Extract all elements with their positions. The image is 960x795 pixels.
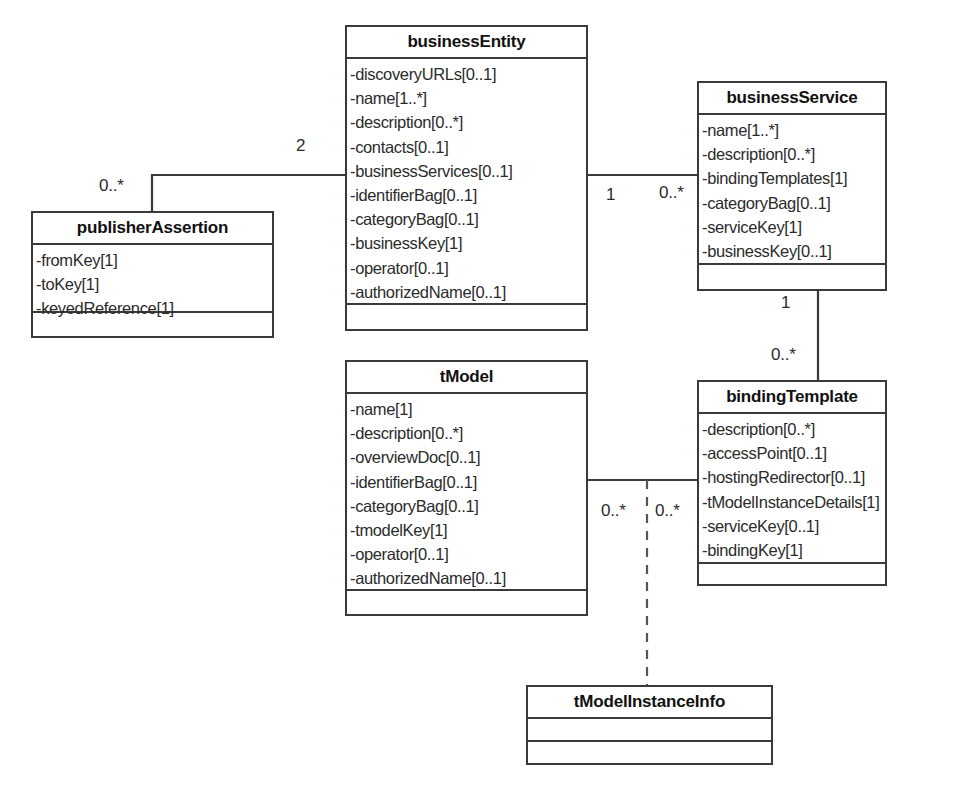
class-name-tmodel: tModel (347, 362, 586, 394)
attribute-row: -bindingKey[1] (702, 538, 885, 562)
uml-class-diagram-canvas: businessEntity -discoveryURLs[0..1] -nam… (0, 0, 960, 795)
attribute-compartment-tmodel: -name[1] -description[0..*] -overviewDoc… (347, 394, 586, 591)
attribute-compartment-publisherassertion: -fromKey[1] -toKey[1] -keyedReference[1] (33, 245, 272, 313)
attribute-row: -identifierBag[0..1] (350, 470, 586, 494)
attribute-row: -description[0..*] (702, 417, 885, 441)
operation-compartment-tmodel (347, 591, 586, 614)
attribute-row: -name[1] (350, 397, 586, 421)
attribute-row: -operator[0..1] (350, 256, 586, 280)
uml-class-businessentity[interactable]: businessEntity -discoveryURLs[0..1] -nam… (345, 25, 588, 331)
attribute-row: -fromKey[1] (36, 248, 272, 272)
attribute-row: -categoryBag[0..1] (702, 191, 885, 215)
attribute-row: -categoryBag[0..1] (350, 207, 586, 231)
attribute-compartment-businessentity: -discoveryURLs[0..1] -name[1..*] -descri… (347, 59, 586, 305)
attribute-row: -name[1..*] (350, 86, 586, 110)
association-businessentity-publisherassertion[interactable] (152, 175, 345, 211)
uml-class-tmodel[interactable]: tModel -name[1] -description[0..*] -over… (345, 360, 588, 616)
attribute-row: -overviewDoc[0..1] (350, 445, 586, 469)
attribute-row: -contacts[0..1] (350, 135, 586, 159)
attribute-row: -categoryBag[0..1] (350, 494, 586, 518)
attribute-row: -authorizedName[0..1] (350, 566, 586, 590)
class-name-tmodelinstanceinfo: tModelInstanceInfo (528, 687, 771, 719)
multiplicity-label-tmodel-binding-to: 0..* (655, 501, 680, 521)
uml-class-publisherassertion[interactable]: publisherAssertion -fromKey[1] -toKey[1]… (31, 211, 274, 338)
operation-compartment-businessentity (347, 305, 586, 329)
attribute-row: -tmodelKey[1] (350, 518, 586, 542)
attribute-row: -accessPoint[0..1] (702, 441, 885, 465)
multiplicity-label-entity-service-to: 0..* (659, 183, 684, 203)
attribute-row: -bindingTemplates[1] (702, 166, 885, 190)
multiplicity-label-entity-service-from: 1 (606, 185, 615, 205)
multiplicity-label-service-binding-from: 1 (781, 293, 790, 313)
attribute-compartment-tmodelinstanceinfo (528, 719, 771, 742)
operation-compartment-bindingtemplate (699, 564, 885, 584)
attribute-row: -discoveryURLs[0..1] (350, 62, 586, 86)
attribute-row: -authorizedName[0..1] (350, 280, 586, 304)
attribute-row: -toKey[1] (36, 272, 272, 296)
operation-compartment-businessservice (699, 265, 885, 289)
multiplicity-label-tmodel-binding-from: 0..* (601, 501, 626, 521)
attribute-row: -tModelInstanceDetails[1] (702, 490, 885, 514)
attribute-row: -serviceKey[0..1] (702, 514, 885, 538)
attribute-row: -description[0..*] (702, 142, 885, 166)
multiplicity-label-entity-assertion-from: 2 (296, 136, 305, 156)
multiplicity-label-service-binding-to: 0..* (771, 345, 796, 365)
attribute-row: -identifierBag[0..1] (350, 183, 586, 207)
attribute-row: -description[0..*] (350, 421, 586, 445)
attribute-row: -name[1..*] (702, 118, 885, 142)
attribute-row: -description[0..*] (350, 110, 586, 134)
attribute-row: -businessServices[0..1] (350, 159, 586, 183)
uml-class-bindingtemplate[interactable]: bindingTemplate -description[0..*] -acce… (697, 380, 887, 586)
attribute-compartment-businessservice: -name[1..*] -description[0..*] -bindingT… (699, 115, 885, 265)
class-name-businessservice: businessService (699, 83, 885, 115)
attribute-row: -businessKey[1] (350, 231, 586, 255)
uml-class-tmodelinstanceinfo[interactable]: tModelInstanceInfo (526, 685, 773, 765)
class-name-bindingtemplate: bindingTemplate (699, 382, 885, 414)
uml-class-businessservice[interactable]: businessService -name[1..*] -description… (697, 81, 887, 291)
multiplicity-label-entity-assertion-to: 0..* (99, 176, 124, 196)
attribute-compartment-bindingtemplate: -description[0..*] -accessPoint[0..1] -h… (699, 414, 885, 564)
class-name-publisherassertion: publisherAssertion (33, 213, 272, 245)
attribute-row: -operator[0..1] (350, 542, 586, 566)
attribute-row: -businessKey[0..1] (702, 239, 885, 263)
operation-compartment-tmodelinstanceinfo (528, 742, 771, 763)
class-name-businessentity: businessEntity (347, 27, 586, 59)
attribute-row: -hostingRedirector[0..1] (702, 465, 885, 489)
attribute-row: -serviceKey[1] (702, 215, 885, 239)
